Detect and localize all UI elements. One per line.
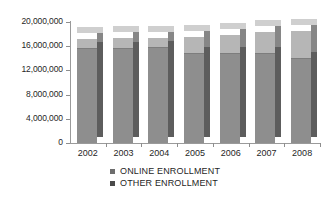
bar-front-2004 [148, 32, 168, 143]
bar-segment-online-2008 [291, 31, 311, 58]
bar-column-2008 [291, 25, 317, 143]
bar-column-2007 [255, 26, 281, 143]
chart-legend: ONLINE ENROLLMENT OTHER ENROLLMENT [0, 166, 328, 190]
x-axis-tick-mark [320, 143, 321, 147]
bar-side-face-online-2004 [168, 32, 174, 42]
bar-front-2005 [184, 31, 204, 143]
y-axis-tick-label: 4,000,000 [26, 113, 63, 123]
bar-front-2008 [291, 25, 311, 143]
bar-column-2004 [148, 32, 174, 143]
bar-segment-online-2002 [77, 39, 97, 48]
bar-column-2005 [184, 31, 210, 143]
bar-front-2002 [77, 33, 97, 143]
legend-label-online: ONLINE ENROLLMENT [120, 166, 220, 176]
bar-segment-other-2007 [255, 53, 275, 143]
bar-segment-online-2006 [220, 35, 240, 54]
bar-side-face-other-2008 [311, 52, 317, 137]
bar-side-face-online-2005 [204, 31, 210, 48]
bar-side-face-other-2002 [97, 42, 103, 137]
bar-segment-other-2006 [220, 53, 240, 143]
x-axis-label-2004: 2004 [141, 148, 177, 158]
bar-segment-other-2008 [291, 58, 311, 143]
x-axis-tick-mark [284, 143, 285, 147]
x-axis-tick-mark [249, 143, 250, 147]
legend-label-other: OTHER ENROLLMENT [120, 178, 218, 188]
bar-segment-other-2003 [113, 48, 133, 143]
bar-segment-online-2007 [255, 32, 275, 53]
bar-side-face-online-2007 [275, 26, 281, 47]
y-axis-tick-label: 8,000,000 [26, 89, 63, 99]
bar-front-2003 [113, 32, 133, 143]
x-axis-label-2008: 2008 [284, 148, 320, 158]
bar-side-face-online-2002 [97, 33, 103, 42]
x-axis-tick-mark [141, 143, 142, 147]
plot-area [70, 22, 320, 143]
legend-item-online: ONLINE ENROLLMENT [0, 166, 328, 176]
x-axis-label-2007: 2007 [249, 148, 285, 158]
bar-side-face-other-2007 [275, 47, 281, 137]
x-axis-label-2003: 2003 [106, 148, 142, 158]
y-axis-tick-label: 16,000,000 [21, 40, 63, 50]
bar-front-2006 [220, 29, 240, 143]
bar-segment-online-2003 [113, 38, 133, 48]
enrollment-stacked-column-chart: 04,000,0008,000,00012,000,00016,000,0002… [0, 0, 328, 205]
legend-swatch-online-icon [110, 169, 115, 174]
x-axis-tick-mark [106, 143, 107, 147]
bar-side-face-online-2006 [240, 29, 246, 48]
bar-segment-other-2004 [148, 47, 168, 143]
bar-segment-online-2005 [184, 37, 204, 54]
bar-column-2003 [113, 32, 139, 143]
bar-side-face-other-2004 [168, 41, 174, 137]
x-axis-tick-mark [213, 143, 214, 147]
y-axis-tick-mark [66, 143, 70, 144]
legend-swatch-other-icon [110, 181, 115, 186]
bar-side-face-other-2006 [240, 47, 246, 137]
bar-segment-other-2002 [77, 48, 97, 143]
bar-side-face-online-2008 [311, 25, 317, 52]
bar-segment-online-2004 [148, 38, 168, 48]
y-axis-tick-label: 20,000,000 [21, 16, 63, 26]
bar-segment-other-2005 [184, 53, 204, 143]
x-axis-label-2002: 2002 [70, 148, 106, 158]
x-axis-label-2006: 2006 [213, 148, 249, 158]
bar-column-2006 [220, 29, 246, 143]
bar-side-face-other-2005 [204, 47, 210, 137]
y-axis-tick-label: 12,000,000 [21, 64, 63, 74]
x-axis-label-2005: 2005 [177, 148, 213, 158]
bar-side-face-online-2003 [133, 32, 139, 42]
bar-column-2002 [77, 33, 103, 143]
legend-item-other: OTHER ENROLLMENT [0, 178, 328, 188]
x-axis-line [70, 143, 320, 144]
bar-side-face-other-2003 [133, 42, 139, 137]
bar-front-2007 [255, 26, 275, 143]
y-axis-tick-label: 0 [58, 137, 63, 147]
x-axis-tick-mark [177, 143, 178, 147]
